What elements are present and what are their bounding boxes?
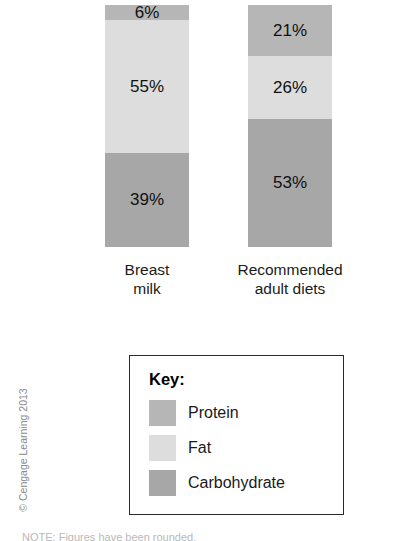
segment-value-label: 53% <box>273 174 307 191</box>
bar-caption-line2: adult diets <box>225 280 355 299</box>
bar-segment-protein: 6% <box>105 5 189 20</box>
bar-caption: Recommended adult diets <box>225 261 355 299</box>
bar-caption-line1: Recommended <box>225 261 355 280</box>
bar-segment-protein: 21% <box>248 5 332 56</box>
segment-value-label: 21% <box>273 22 307 39</box>
bar-segment-carbohydrate: 53% <box>248 119 332 247</box>
legend-item-carbohydrate: Carbohydrate <box>149 470 343 496</box>
bar-caption-line2: milk <box>82 280 212 299</box>
segment-value-label: 55% <box>130 78 164 95</box>
legend-swatch-protein <box>149 400 176 426</box>
legend-label: Fat <box>188 439 211 457</box>
legend-item-fat: Fat <box>149 435 343 461</box>
footnote-text: NOTE: Figures have been rounded. <box>22 531 402 541</box>
stacked-bar: 6% 55% 39% <box>105 5 189 247</box>
segment-value-label: 6% <box>135 4 160 21</box>
bar-caption-line1: Breast <box>82 261 212 280</box>
bar-group-breast-milk: 6% 55% 39% Breast milk <box>82 5 212 299</box>
legend-swatch-carbohydrate <box>149 470 176 496</box>
stacked-bar: 21% 26% 53% <box>248 5 332 247</box>
stacked-bar-chart: 6% 55% 39% Breast milk 21% 26% 53% <box>0 0 416 310</box>
legend-title: Key: <box>149 370 343 389</box>
legend-swatch-fat <box>149 435 176 461</box>
segment-value-label: 39% <box>130 191 164 208</box>
legend-item-protein: Protein <box>149 400 343 426</box>
legend-label: Protein <box>188 404 239 422</box>
legend-box: Key: Protein Fat Carbohydrate <box>129 355 344 515</box>
bar-segment-carbohydrate: 39% <box>105 153 189 247</box>
bar-caption: Breast milk <box>82 261 212 299</box>
bar-segment-fat: 26% <box>248 56 332 119</box>
bar-segment-fat: 55% <box>105 20 189 153</box>
copyright-notice: © Cengage Learning 2013 <box>17 375 29 525</box>
segment-value-label: 26% <box>273 79 307 96</box>
legend-label: Carbohydrate <box>188 474 285 492</box>
bar-group-recommended-adult-diets: 21% 26% 53% Recommended adult diets <box>225 5 355 299</box>
